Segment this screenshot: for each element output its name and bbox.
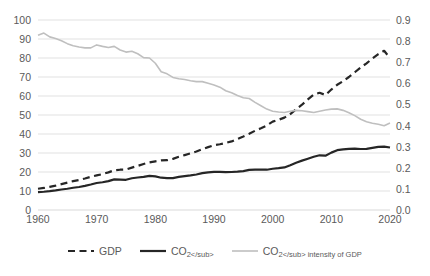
legend-label: CO2</sub> xyxy=(171,246,214,257)
x-tick: 1970 xyxy=(85,214,108,225)
x-axis: 1960197019801990200020102020 xyxy=(38,214,390,230)
y-tick-right: 0.3 xyxy=(396,141,411,152)
y-tick-right: 0.8 xyxy=(396,36,411,47)
x-tick: 1980 xyxy=(144,214,167,225)
legend-label: CO2</sub> intensity of GDP xyxy=(263,246,362,257)
series-line-2 xyxy=(38,33,390,126)
legend-item-2[interactable]: CO2</sub> intensity of GDP xyxy=(232,246,362,257)
y-tick-left: 80 xyxy=(19,53,31,64)
x-tick: 2010 xyxy=(320,214,343,225)
legend-item-0[interactable]: GDP xyxy=(68,246,122,257)
series-lines xyxy=(38,20,390,210)
y-axis-left: 0102030405060708090100 xyxy=(0,20,31,210)
legend-label: GDP xyxy=(99,246,122,257)
y-tick-left: 10 xyxy=(19,186,31,197)
y-tick-left: 20 xyxy=(19,167,31,178)
legend-swatch-icon xyxy=(68,246,94,256)
y-tick-left: 50 xyxy=(19,110,31,121)
x-tick: 2020 xyxy=(378,214,401,225)
y-tick-right: 0.6 xyxy=(396,78,411,89)
y-tick-left: 40 xyxy=(19,129,31,140)
y-tick-left: 90 xyxy=(19,34,31,45)
y-tick-left: 100 xyxy=(13,15,31,26)
y-tick-right: 0.7 xyxy=(396,57,411,68)
x-tick: 2000 xyxy=(261,214,284,225)
y-tick-right: 0.4 xyxy=(396,120,411,131)
y-axis-right: 0.00.10.20.30.40.50.60.70.80.9 xyxy=(396,20,428,210)
chart-container: 0102030405060708090100 0.00.10.20.30.40.… xyxy=(0,0,430,276)
chart-legend: GDPCO2</sub>CO2</sub> intensity of GDP xyxy=(0,246,430,257)
plot-area xyxy=(38,20,390,210)
x-tick: 1960 xyxy=(26,214,49,225)
y-tick-right: 0.5 xyxy=(396,99,411,110)
y-tick-right: 0.9 xyxy=(396,15,411,26)
series-line-0 xyxy=(38,51,390,189)
legend-swatch-icon xyxy=(140,246,166,256)
legend-item-1[interactable]: CO2</sub> xyxy=(140,246,214,257)
x-tick: 1990 xyxy=(202,214,225,225)
legend-swatch-icon xyxy=(232,246,258,256)
series-line-1 xyxy=(38,147,390,193)
y-tick-right: 0.2 xyxy=(396,163,411,174)
y-tick-left: 70 xyxy=(19,72,31,83)
y-tick-right: 0.1 xyxy=(396,184,411,195)
y-tick-left: 30 xyxy=(19,148,31,159)
y-tick-left: 60 xyxy=(19,91,31,102)
